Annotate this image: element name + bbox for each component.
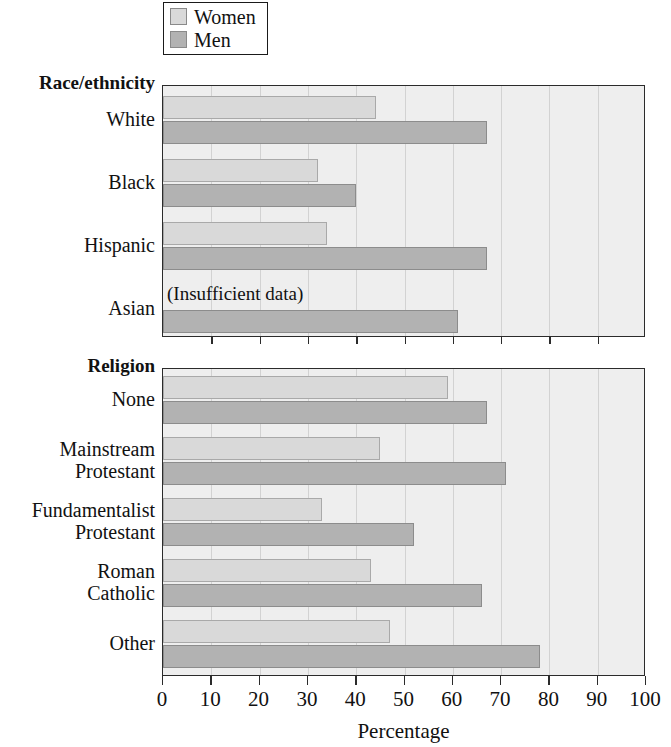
x-tick-50 bbox=[404, 676, 405, 685]
bar-women-fundamentalist-protestant bbox=[163, 498, 322, 521]
category-label-line: Other bbox=[0, 632, 155, 654]
category-label-line: Catholic bbox=[0, 582, 155, 604]
category-label-asian: Asian bbox=[0, 297, 155, 319]
x-tick-label-10: 10 bbox=[200, 687, 221, 712]
category-label-line: White bbox=[0, 108, 155, 130]
category-label-roman-catholic: RomanCatholic bbox=[0, 560, 155, 604]
x-tick-label-20: 20 bbox=[248, 687, 269, 712]
bar-men-white bbox=[163, 121, 487, 144]
x-tick-60 bbox=[452, 676, 453, 685]
legend-swatch-women bbox=[170, 8, 187, 25]
bar-women-white bbox=[163, 96, 376, 119]
category-label-line: Fundamentalist bbox=[0, 499, 155, 521]
bar-women-mainstream-protestant bbox=[163, 437, 380, 460]
group-title-religion: Religion bbox=[0, 355, 155, 377]
legend-item-men: Men bbox=[170, 28, 261, 51]
panel-tick-80 bbox=[549, 336, 550, 344]
group-title-race-ethnicity: Race/ethnicity bbox=[0, 72, 155, 94]
category-label-line: Black bbox=[0, 171, 155, 193]
x-tick-label-100: 100 bbox=[629, 687, 661, 712]
x-axis: 0102030405060708090100 Percentage bbox=[162, 676, 645, 746]
bar-women-other bbox=[163, 620, 390, 643]
bar-women-roman-catholic bbox=[163, 559, 371, 582]
category-label-fundamentalist-protestant: FundamentalistProtestant bbox=[0, 499, 155, 543]
panel-tick-60 bbox=[453, 336, 454, 344]
panel-tick-10 bbox=[211, 336, 212, 344]
category-label-line: Protestant bbox=[0, 460, 155, 482]
bar-men-other bbox=[163, 645, 540, 668]
bar-group-religion bbox=[163, 369, 644, 675]
x-tick-0 bbox=[162, 676, 163, 685]
x-axis-label: Percentage bbox=[162, 719, 645, 744]
x-tick-label-50: 50 bbox=[393, 687, 414, 712]
category-label-mainstream-protestant: MainstreamProtestant bbox=[0, 438, 155, 482]
category-label-line: Roman bbox=[0, 560, 155, 582]
legend-item-women: Women bbox=[170, 5, 261, 28]
x-tick-10 bbox=[210, 676, 211, 685]
bar-men-fundamentalist-protestant bbox=[163, 523, 414, 546]
panel-tick-30 bbox=[308, 336, 309, 344]
legend-label-women: Women bbox=[194, 7, 256, 27]
category-label-line: Hispanic bbox=[0, 234, 155, 256]
bar-women-black bbox=[163, 159, 318, 182]
x-tick-80 bbox=[548, 676, 549, 685]
panel-tick-90 bbox=[598, 336, 599, 344]
legend-label-men: Men bbox=[194, 30, 231, 50]
x-tick-label-0: 0 bbox=[157, 687, 168, 712]
bar-men-asian bbox=[163, 310, 458, 333]
x-tick-label-60: 60 bbox=[441, 687, 462, 712]
x-tick-label-90: 90 bbox=[586, 687, 607, 712]
x-tick-30 bbox=[307, 676, 308, 685]
x-tick-label-70: 70 bbox=[490, 687, 511, 712]
bar-men-black bbox=[163, 184, 356, 207]
category-label-line: Protestant bbox=[0, 521, 155, 543]
x-tick-90 bbox=[597, 676, 598, 685]
bar-men-hispanic bbox=[163, 247, 487, 270]
category-label-line: None bbox=[0, 388, 155, 410]
panel-tick-40 bbox=[356, 336, 357, 344]
bar-group-race: (Insufficient data) bbox=[163, 86, 644, 336]
panel-tick-20 bbox=[260, 336, 261, 344]
category-label-hispanic: Hispanic bbox=[0, 234, 155, 256]
category-label-other: Other bbox=[0, 632, 155, 654]
bar-men-none bbox=[163, 401, 487, 424]
category-label-black: Black bbox=[0, 171, 155, 193]
x-tick-20 bbox=[259, 676, 260, 685]
x-tick-label-40: 40 bbox=[345, 687, 366, 712]
category-label-white: White bbox=[0, 108, 155, 130]
bar-women-none bbox=[163, 376, 448, 399]
chart-legend: Women Men bbox=[163, 2, 268, 55]
insufficient-data-note: (Insufficient data) bbox=[167, 283, 303, 305]
panel-tick-50 bbox=[405, 336, 406, 344]
x-tick-label-80: 80 bbox=[538, 687, 559, 712]
chart-panel-religion bbox=[162, 368, 645, 676]
category-label-line: Asian bbox=[0, 297, 155, 319]
x-tick-40 bbox=[355, 676, 356, 685]
legend-swatch-men bbox=[170, 31, 187, 48]
x-tick-70 bbox=[500, 676, 501, 685]
panel-tick-70 bbox=[501, 336, 502, 344]
bar-men-roman-catholic bbox=[163, 584, 482, 607]
category-label-line: Mainstream bbox=[0, 438, 155, 460]
category-label-none: None bbox=[0, 388, 155, 410]
chart-panel-race-ethnicity: (Insufficient data) bbox=[162, 85, 645, 337]
x-tick-label-30: 30 bbox=[296, 687, 317, 712]
bar-women-hispanic bbox=[163, 222, 327, 245]
bar-men-mainstream-protestant bbox=[163, 462, 506, 485]
x-tick-100 bbox=[645, 676, 646, 685]
